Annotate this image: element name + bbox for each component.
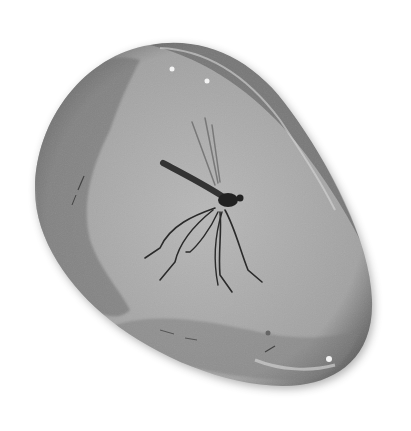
highlight-glint bbox=[205, 79, 210, 84]
highlight-glint bbox=[170, 67, 175, 72]
amber-stone-graphic bbox=[0, 0, 411, 431]
amber-illustration bbox=[0, 0, 411, 431]
highlight-glint bbox=[326, 356, 332, 362]
